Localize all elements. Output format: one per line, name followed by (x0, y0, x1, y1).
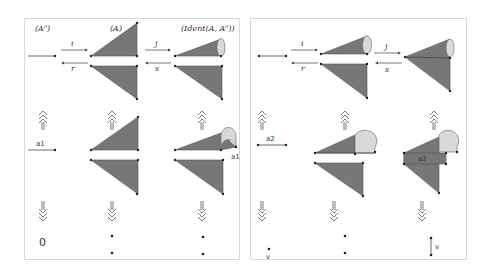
triangle-lower-2 (315, 163, 363, 196)
cone-cap-2 (355, 130, 377, 153)
vertex (54, 55, 56, 57)
arrowhead-icon (145, 62, 148, 65)
arrowhead-icon (168, 49, 171, 52)
down-triple-arrow-icon (330, 201, 338, 221)
map-label-s: s (385, 65, 389, 74)
map-label-j: j (383, 42, 388, 51)
arrowhead-icon (291, 62, 294, 65)
edge-label-a2: a2 (266, 135, 274, 143)
triangle-lower-right (175, 66, 222, 99)
up-triple-arrow-icon (430, 111, 438, 130)
triangle-lower (91, 66, 137, 99)
point (202, 253, 205, 256)
up-triple-arrow-icon (258, 111, 266, 130)
left-diagram-panel: (A⁰) (A) (Ident(A, A⁰)) i r j s (24, 18, 240, 260)
header-a0: (A⁰) (35, 24, 50, 33)
arrowhead-icon (315, 49, 318, 52)
point (202, 236, 205, 239)
v-label-right: v (435, 243, 439, 251)
point (111, 235, 114, 238)
up-triple-arrow-icon (39, 111, 47, 130)
map-label-r: r (301, 64, 306, 73)
cone-upper-2 (315, 135, 355, 153)
header-ident: (Ident(A, A⁰)) (181, 24, 235, 33)
map-label-s: s (155, 64, 159, 73)
point-v (268, 248, 271, 251)
edge-label-a1: a1 (36, 140, 44, 148)
map-label-j: j (153, 39, 158, 48)
zero-label: 0 (39, 236, 46, 249)
cone-upper (175, 39, 221, 56)
triangle-lower (321, 64, 367, 98)
up-triple-arrow-icon (198, 111, 206, 130)
cone-merged (405, 39, 450, 91)
map-label-r: r (71, 64, 76, 73)
v-label-left: v (266, 253, 270, 261)
up-triple-arrow-icon (108, 111, 116, 130)
edge-label-a1-right: a1 (231, 153, 239, 161)
cone-cap (217, 39, 225, 57)
down-triple-arrow-icon (39, 201, 47, 221)
cone-merged-2 (404, 137, 439, 193)
cone-upper (321, 36, 367, 54)
arrowhead-icon (375, 62, 378, 65)
up-triple-arrow-icon (341, 111, 349, 130)
arrowhead-icon (61, 62, 64, 65)
cone-cap (446, 39, 454, 57)
arrowhead-icon (85, 49, 88, 52)
cone-cap (363, 36, 372, 54)
map-label-i: i (71, 39, 74, 48)
edge-label-a2-right: a2 (418, 155, 426, 163)
right-diagram-svg: i r j s (251, 19, 468, 261)
point (344, 235, 347, 238)
header-a: (A) (110, 24, 122, 33)
right-diagram-panel: i r j s (250, 18, 467, 260)
down-triple-arrow-icon (258, 201, 266, 221)
point (344, 252, 347, 255)
triangle-lower-2 (91, 160, 138, 194)
triangle-lower-right-2 (175, 160, 223, 194)
cone-cap-3 (439, 130, 459, 152)
down-triple-arrow-icon (198, 201, 206, 221)
down-triple-arrow-icon (418, 201, 426, 221)
map-label-i: i (301, 39, 304, 48)
down-triple-arrow-icon (108, 201, 116, 221)
arrowhead-icon (398, 52, 401, 55)
point (111, 252, 114, 255)
left-diagram-svg: (A⁰) (A) (Ident(A, A⁰)) i r j s (25, 19, 241, 261)
